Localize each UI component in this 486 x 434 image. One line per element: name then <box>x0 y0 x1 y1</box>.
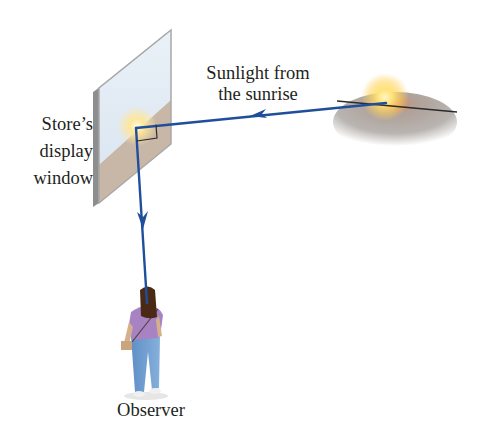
window-label-line-1: Store’s <box>14 111 93 138</box>
store-window <box>93 30 171 207</box>
sun-icon <box>361 73 409 121</box>
observer-bag <box>121 341 132 350</box>
observer-jeans <box>131 336 160 392</box>
observer-hair <box>140 287 157 319</box>
window-label: Store’s display window <box>14 111 93 192</box>
reflection-diagram: Sunlight from the sunrise Store’s displa… <box>0 0 486 434</box>
window-label-line-2: display <box>14 138 93 165</box>
observer-figure <box>121 287 168 401</box>
sunlight-label-line-1: Sunlight from <box>196 63 320 84</box>
sunlight-label: Sunlight from the sunrise <box>196 63 320 105</box>
window-edge <box>93 88 99 207</box>
observer-label: Observer <box>106 397 196 424</box>
sunlight-label-line-2: the sunrise <box>196 84 320 105</box>
window-label-line-3: window <box>14 165 93 192</box>
observer-shoe <box>149 388 161 394</box>
sunrise-group <box>333 73 457 152</box>
